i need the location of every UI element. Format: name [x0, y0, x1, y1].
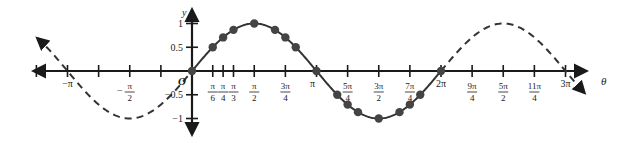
data-point: [250, 19, 258, 27]
x-tick-label: 7π4: [405, 81, 415, 103]
x-tick-label: 2π: [436, 78, 446, 89]
svg-text:4: 4: [470, 93, 475, 103]
svg-text:4: 4: [408, 93, 413, 103]
data-point: [188, 67, 196, 75]
svg-text:4: 4: [345, 93, 350, 103]
y-tick-label: 1: [178, 18, 183, 29]
svg-text:4: 4: [283, 93, 288, 103]
sine-graph: 10.5−0.5−1−π−π2π6π4π3π23π4π5π43π27π42π9π…: [0, 0, 621, 145]
y-axis-label: y: [181, 7, 187, 18]
data-point: [375, 114, 383, 122]
x-tick-label: π3: [229, 81, 239, 103]
svg-text:2: 2: [501, 93, 506, 103]
x-tick-label: π6: [208, 81, 218, 103]
svg-text:4: 4: [532, 93, 537, 103]
data-point: [219, 33, 227, 41]
data-point: [281, 33, 289, 41]
plot-canvas: 10.5−0.5−1−π−π2π6π4π3π23π4π5π43π27π42π9π…: [0, 0, 621, 145]
svg-text:π: π: [221, 81, 226, 91]
data-point: [312, 67, 320, 75]
svg-text:π: π: [127, 81, 132, 91]
data-point: [354, 108, 362, 116]
svg-text:3π: 3π: [374, 81, 384, 91]
x-tick-label: π2: [249, 81, 259, 103]
svg-text:3: 3: [231, 93, 236, 103]
svg-text:3π: 3π: [281, 81, 291, 91]
data-point: [292, 43, 300, 51]
x-tick-label: 11π4: [528, 81, 542, 103]
svg-text:4: 4: [221, 93, 226, 103]
svg-text:−: −: [117, 85, 123, 96]
svg-text:2: 2: [127, 93, 132, 103]
x-tick-label: 3π2: [374, 81, 384, 103]
x-tick-label: 5π2: [498, 81, 508, 103]
data-point: [416, 91, 424, 99]
x-tick-label: 3π4: [280, 81, 290, 103]
data-point: [229, 26, 237, 34]
svg-text:π: π: [210, 81, 215, 91]
x-tick-label: −π: [62, 78, 73, 89]
origin-label: O: [178, 75, 186, 87]
x-tick-label: 3π: [560, 78, 570, 89]
svg-text:9π: 9π: [468, 81, 478, 91]
x-tick-label: 5π4: [343, 81, 353, 103]
x-axis-label: θ: [601, 75, 607, 87]
x-tick-label: π4: [218, 81, 228, 103]
svg-text:π: π: [252, 81, 257, 91]
svg-text:7π: 7π: [405, 81, 415, 91]
data-point: [333, 91, 341, 99]
y-tick-label: −1: [172, 113, 183, 124]
y-tick-label: 0.5: [171, 42, 184, 53]
svg-text:2: 2: [252, 93, 257, 103]
dashed-sine-left: [37, 38, 192, 118]
x-tick-label: −π2: [117, 81, 135, 103]
svg-text:π: π: [231, 81, 236, 91]
data-point: [271, 26, 279, 34]
svg-text:5π: 5π: [499, 81, 509, 91]
x-tick-label: π: [310, 78, 315, 89]
data-point: [209, 43, 217, 51]
svg-text:6: 6: [211, 93, 216, 103]
data-point: [395, 108, 403, 116]
x-tick-label: 9π4: [467, 81, 477, 103]
svg-text:2: 2: [377, 93, 382, 103]
data-point: [437, 67, 445, 75]
svg-text:5π: 5π: [343, 81, 353, 91]
y-tick-label: −0.5: [165, 89, 183, 100]
svg-text:11π: 11π: [528, 81, 542, 91]
